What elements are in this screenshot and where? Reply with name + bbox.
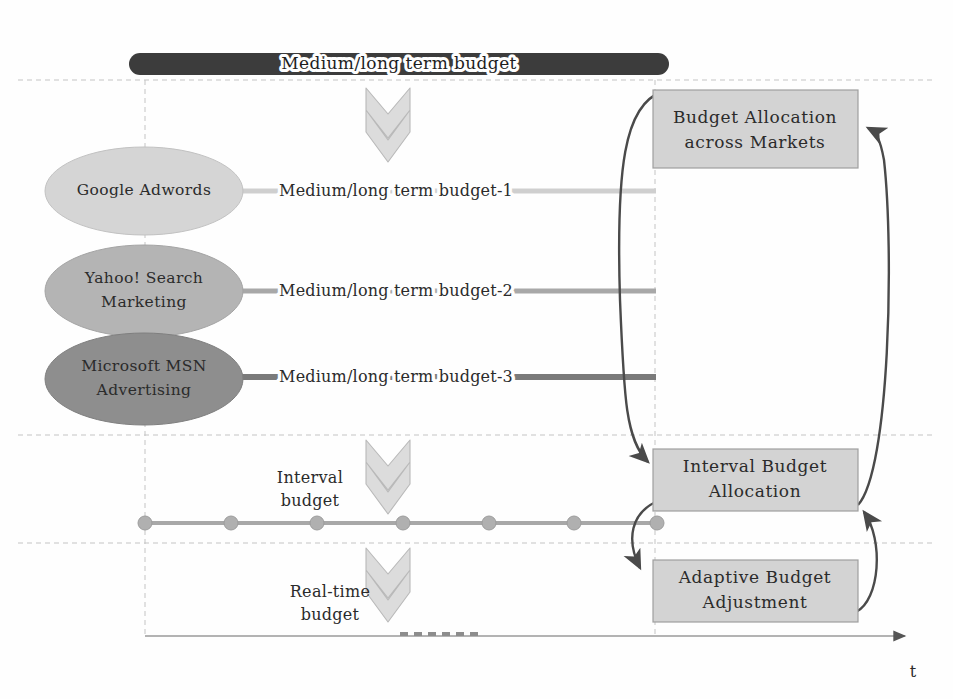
interval-marker [138, 516, 152, 530]
ellipse-label-microsoft-line2: Advertising [96, 381, 192, 399]
chevron-arrows [366, 88, 410, 622]
time-axis: t [145, 634, 917, 681]
box-shape-budget-allocation [653, 90, 858, 168]
interval-marker [650, 516, 664, 530]
channel-edge-labels: Medium/long term budget-1 Medium/long te… [279, 181, 513, 386]
interval-marker [567, 516, 581, 530]
channel-nodes: Google Adwords Yahoo! Search Marketing M… [45, 147, 243, 425]
channel-node-microsoft-msn-advertising[interactable]: Microsoft MSN Advertising [45, 333, 243, 425]
chevron-arrow-medium-long-term [366, 88, 410, 162]
ellipse-label-microsoft-line1: Microsoft MSN [81, 357, 207, 375]
process-boxes: Budget Allocation across Markets Interva… [653, 90, 858, 622]
ellipse-label-google-adwords-line1: Google Adwords [77, 181, 212, 199]
process-box-budget-allocation-across-markets[interactable]: Budget Allocation across Markets [653, 90, 858, 168]
interval-timeline [138, 516, 664, 530]
ellipse-yahoo-search-marketing [45, 245, 243, 337]
ellipse-microsoft-msn-advertising [45, 333, 243, 425]
feedback-curves-right [856, 128, 889, 612]
phase-labels: Interval budget Real-time budget [277, 468, 370, 624]
box-label-budget-allocation-line1: Budget Allocation [673, 107, 837, 127]
time-axis-label: t [910, 662, 917, 681]
chevron-arrow-interval [366, 440, 410, 514]
channel-node-yahoo-search-marketing[interactable]: Yahoo! Search Marketing [45, 245, 243, 337]
process-box-interval-budget-allocation[interactable]: Interval Budget Allocation [653, 449, 858, 511]
edge-label-microsoft: Medium/long term budget-3 [279, 367, 513, 386]
phase-label-realtime-line1: Real-time [290, 582, 370, 601]
chevron-shape-2 [366, 440, 410, 514]
interval-marker [224, 516, 238, 530]
channel-node-google-adwords[interactable]: Google Adwords [45, 147, 243, 235]
box-label-budget-allocation-line2: across Markets [685, 132, 826, 152]
phase-label-interval-line1: Interval [277, 468, 343, 487]
top-budget-bar-label: Medium/long term budget [281, 53, 517, 73]
ellipse-label-yahoo-line1: Yahoo! Search [84, 269, 203, 287]
phase-label-interval-line2: budget [281, 491, 340, 510]
medium-long-term-budget-bar: Medium/long term budget [140, 50, 658, 78]
phase-label-realtime-line2: budget [301, 605, 360, 624]
box-label-adaptive-line2: Adjustment [702, 592, 808, 612]
edge-label-google: Medium/long term budget-1 [279, 181, 513, 200]
box-label-interval-line1: Interval Budget [683, 456, 827, 476]
feedback-arrow-interval-to-allocation [858, 128, 889, 505]
interval-marker [396, 516, 410, 530]
box-label-adaptive-line1: Adaptive Budget [678, 567, 832, 587]
process-box-adaptive-budget-adjustment[interactable]: Adaptive Budget Adjustment [653, 560, 858, 622]
chevron-shape-3 [366, 548, 410, 622]
interval-marker [482, 516, 496, 530]
box-label-interval-line2: Allocation [708, 481, 802, 501]
chevron-shape-1 [366, 88, 410, 162]
interval-marker [310, 516, 324, 530]
chevron-arrow-real-time [366, 548, 410, 622]
edge-label-yahoo: Medium/long term budget-2 [279, 281, 513, 300]
diagram-canvas: t Medium/long term budget [0, 0, 953, 699]
feedback-arrow-adaptive-to-interval [856, 512, 877, 612]
budget-allocation-framework-diagram: t Medium/long term budget [0, 0, 953, 699]
ellipse-label-yahoo-line2: Marketing [101, 293, 187, 311]
